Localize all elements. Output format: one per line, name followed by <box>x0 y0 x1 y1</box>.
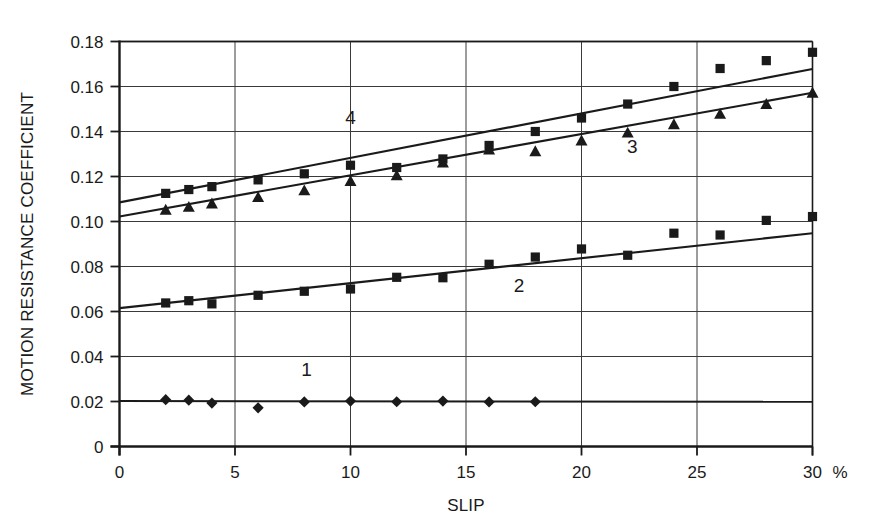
y-tick-label: 0.14 <box>70 123 103 142</box>
data-point-series-1 <box>160 394 171 405</box>
data-point-series-2 <box>392 273 401 282</box>
data-point-series-4 <box>716 64 725 73</box>
data-point-series-4 <box>762 56 771 65</box>
data-point-series-4 <box>438 154 447 163</box>
y-tick-label: 0.12 <box>70 168 103 187</box>
x-tick-label: 25 <box>688 463 707 482</box>
data-point-series-4 <box>577 113 586 122</box>
data-markers <box>160 48 819 414</box>
data-point-series-4 <box>300 169 309 178</box>
data-point-series-3 <box>668 118 680 129</box>
tick-labels: 00.020.040.060.080.100.120.140.160.18051… <box>70 33 847 482</box>
x-tick-label: 0 <box>115 463 124 482</box>
data-point-series-2 <box>184 296 193 305</box>
data-point-series-4 <box>531 127 540 136</box>
data-point-series-1 <box>183 395 194 406</box>
data-point-series-2 <box>207 299 216 308</box>
x-tick-label: 20 <box>572 463 591 482</box>
data-point-series-4 <box>207 182 216 191</box>
y-tick-label: 0.04 <box>70 348 103 367</box>
y-axis-title: MOTION RESISTANCE COEFFICIENT <box>18 92 37 396</box>
data-point-series-2 <box>716 230 725 239</box>
data-point-series-2 <box>254 291 263 300</box>
series-label-4: 4 <box>345 107 356 128</box>
y-tick-label: 0.02 <box>70 393 103 412</box>
plot-frame <box>111 41 813 456</box>
data-point-series-2 <box>762 216 771 225</box>
data-point-series-2 <box>531 252 540 261</box>
data-point-series-3 <box>298 184 310 195</box>
data-point-series-4 <box>669 82 678 91</box>
data-point-series-1 <box>437 395 448 406</box>
data-point-series-2 <box>300 287 309 296</box>
x-tick-label: 30 <box>803 463 822 482</box>
data-point-series-3 <box>529 145 541 156</box>
data-point-series-2 <box>161 298 170 307</box>
x-tick-label: 10 <box>341 463 360 482</box>
data-point-series-4 <box>346 161 355 170</box>
data-point-series-2 <box>485 260 494 269</box>
data-point-series-1 <box>206 397 217 408</box>
data-point-series-2 <box>669 229 678 238</box>
y-tick-label: 0.06 <box>70 303 103 322</box>
data-point-series-4 <box>485 141 494 150</box>
y-tick-label: 0 <box>94 438 103 457</box>
y-tick-label: 0.08 <box>70 258 103 277</box>
x-axis-title: SLIP <box>447 496 485 515</box>
trendline-series-1 <box>120 401 813 402</box>
series-annotations: 1234 <box>301 107 637 380</box>
data-point-series-2 <box>623 251 632 260</box>
data-point-series-1 <box>345 395 356 406</box>
data-point-series-1 <box>299 396 310 407</box>
data-point-series-2 <box>577 244 586 253</box>
series-label-3: 3 <box>627 136 638 157</box>
chart-canvas: 00.020.040.060.080.100.120.140.160.18051… <box>0 0 876 531</box>
data-point-series-2 <box>808 212 817 221</box>
data-point-series-4 <box>623 99 632 108</box>
chart-figure: 00.020.040.060.080.100.120.140.160.18051… <box>0 0 876 531</box>
data-point-series-4 <box>392 163 401 172</box>
series-label-1: 1 <box>301 359 312 380</box>
y-tick-label: 0.10 <box>70 213 103 232</box>
x-tick-label: 15 <box>457 463 476 482</box>
data-point-series-4 <box>808 48 817 57</box>
data-point-series-4 <box>161 189 170 198</box>
y-tick-label: 0.18 <box>70 33 103 52</box>
data-point-series-1 <box>484 396 495 407</box>
x-axis-unit-label: % <box>833 463 848 482</box>
axis-ticks <box>111 42 813 456</box>
y-tick-label: 0.16 <box>70 78 103 97</box>
data-point-series-1 <box>253 402 264 413</box>
series-label-2: 2 <box>514 275 525 296</box>
data-point-series-2 <box>438 273 447 282</box>
data-point-series-3 <box>807 87 819 98</box>
data-point-series-4 <box>254 175 263 184</box>
x-tick-label: 5 <box>230 463 239 482</box>
data-point-series-1 <box>391 396 402 407</box>
data-point-series-4 <box>184 185 193 194</box>
data-point-series-1 <box>530 396 541 407</box>
data-point-series-3 <box>576 135 588 146</box>
data-point-series-2 <box>346 284 355 293</box>
